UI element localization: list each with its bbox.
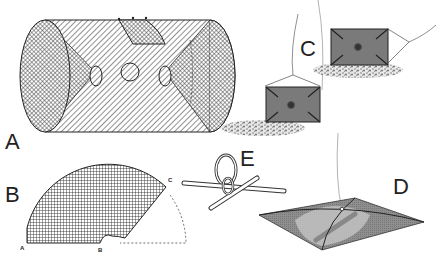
point-label-c: C [168,177,172,183]
point-label-a: A [20,245,24,251]
panel-label-d: D [393,176,409,198]
panel-a-cylinder-trap [20,17,235,132]
panel-label-b: B [5,184,20,206]
panel-label-a: A [5,131,20,153]
panel-e-ring-joint [184,155,284,208]
point-label-b: B [98,247,102,253]
diagram-canvas [0,0,446,262]
panel-c-weighted-traps [221,0,436,136]
panel-b-netting-pattern [27,164,186,243]
panel-label-c: C [300,38,316,60]
panel-label-e: E [240,148,255,170]
